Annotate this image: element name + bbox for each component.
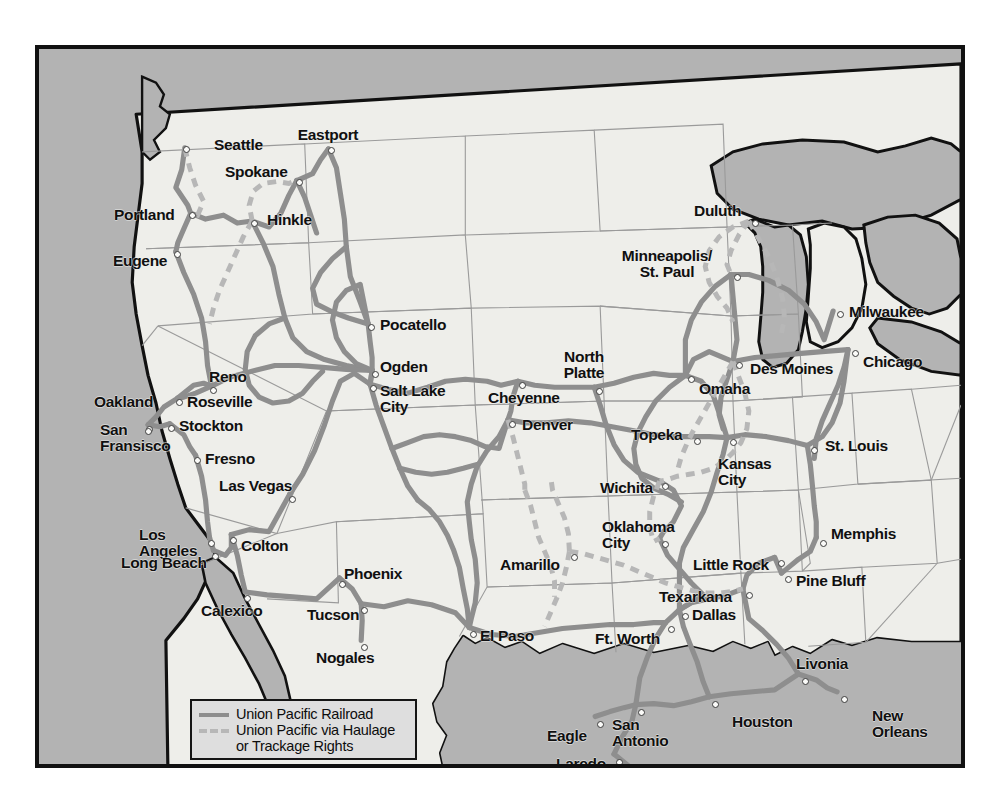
city-label: Salt Lake City — [380, 383, 445, 415]
city-dot[interactable] — [730, 439, 737, 446]
city-label: Eastport — [248, 127, 408, 143]
city-label: Fresno — [205, 451, 255, 467]
city-dot[interactable] — [694, 438, 701, 445]
city-label: Minneapolis/ St. Paul — [587, 248, 747, 280]
city-dot[interactable] — [596, 388, 603, 395]
city-dot[interactable] — [208, 540, 215, 547]
city-dot[interactable] — [616, 759, 623, 766]
city-dot[interactable] — [712, 701, 719, 708]
city-label: Ft. Worth — [595, 631, 660, 647]
legend-label-haulage: Union Pacific via Haulage or Trackage Ri… — [236, 722, 408, 754]
city-dot[interactable] — [785, 576, 792, 583]
city-dot[interactable] — [837, 311, 844, 318]
legend-item-haulage: Union Pacific via Haulage or Trackage Ri… — [199, 722, 408, 754]
city-label: Livonia — [796, 656, 848, 672]
city-dot[interactable] — [194, 457, 201, 464]
city-label: Chicago — [863, 354, 922, 370]
city-label: Amarillo — [500, 557, 560, 573]
city-label: Pine Bluff — [796, 573, 865, 589]
city-label: Stockton — [179, 418, 243, 434]
city-label: Ogden — [380, 359, 428, 375]
city-dot[interactable] — [328, 147, 335, 154]
city-dot[interactable] — [183, 146, 190, 153]
city-label: Reno — [209, 369, 247, 385]
legend-item-railroad: Union Pacific Railroad — [199, 706, 408, 722]
map-frame: Union Pacific Railroad Union Pacific via… — [35, 45, 965, 768]
city-label: Colton — [241, 538, 288, 554]
city-dot[interactable] — [736, 362, 743, 369]
city-label: St. Louis — [825, 438, 888, 454]
city-dot[interactable] — [519, 382, 526, 389]
city-label: Denver — [522, 417, 573, 433]
city-dot[interactable] — [189, 212, 196, 219]
city-dot[interactable] — [802, 678, 809, 685]
legend-solid-line-icon — [199, 713, 229, 717]
city-dot[interactable] — [212, 553, 219, 560]
city-label: Calexico — [201, 603, 262, 619]
city-label: El Paso — [480, 628, 534, 644]
city-label: Memphis — [831, 526, 896, 542]
city-label: Milwaukee — [849, 304, 924, 320]
city-label: Laredo — [556, 756, 606, 768]
city-label: Dallas — [692, 607, 736, 623]
map-legend: Union Pacific Railroad Union Pacific via… — [190, 699, 417, 760]
city-dot[interactable] — [470, 631, 477, 638]
city-dot[interactable] — [682, 613, 689, 620]
city-dot[interactable] — [176, 399, 183, 406]
city-label: Texarkana — [659, 589, 732, 605]
city-label: Eugene — [113, 253, 167, 269]
city-label: Las Vegas — [219, 478, 292, 494]
city-dot[interactable] — [778, 560, 785, 567]
city-dot[interactable] — [296, 179, 303, 186]
city-dot[interactable] — [662, 483, 669, 490]
city-dot[interactable] — [571, 554, 578, 561]
legend-dashed-line-icon — [199, 729, 229, 733]
city-label: Topeka — [631, 427, 682, 443]
city-dot[interactable] — [638, 709, 645, 716]
city-dot[interactable] — [746, 592, 753, 599]
city-dot[interactable] — [688, 376, 695, 383]
city-dot[interactable] — [244, 595, 251, 602]
city-dot[interactable] — [289, 496, 296, 503]
city-label: Roseville — [187, 394, 252, 410]
city-label: Oakland — [94, 394, 153, 410]
city-label: Nogales — [316, 650, 374, 666]
city-label: Kansas City — [718, 456, 771, 488]
city-label: Little Rock — [693, 557, 769, 573]
map-root: Union Pacific Railroad Union Pacific via… — [0, 0, 1001, 794]
city-label: San Antonio — [612, 717, 668, 749]
city-label: Wichita — [600, 480, 653, 496]
city-dot[interactable] — [820, 540, 827, 547]
city-label: San Fransisco — [100, 422, 171, 454]
city-label: Des Moines — [750, 361, 833, 377]
city-dot[interactable] — [852, 350, 859, 357]
city-label: North Platte — [504, 349, 664, 381]
city-label: New Orleans — [872, 708, 928, 740]
city-dot[interactable] — [251, 220, 258, 227]
city-label: Hinkle — [267, 212, 312, 228]
city-dot[interactable] — [668, 626, 675, 633]
lake-superior — [711, 138, 961, 229]
city-label: Omaha — [699, 381, 750, 397]
city-label: Cheyenne — [488, 390, 560, 406]
city-dot[interactable] — [841, 696, 848, 703]
city-label: Phoenix — [344, 566, 402, 582]
city-dot[interactable] — [370, 385, 377, 392]
city-label: Long Beach — [121, 555, 207, 571]
city-dot[interactable] — [811, 447, 818, 454]
city-dot[interactable] — [368, 324, 375, 331]
city-label: Duluth — [694, 203, 741, 219]
city-label: Pocatello — [380, 317, 446, 333]
city-label: Oklahoma City — [602, 519, 675, 551]
city-dot[interactable] — [361, 607, 368, 614]
city-dot[interactable] — [372, 371, 379, 378]
city-label: Houston — [732, 714, 793, 730]
city-label: Spokane — [225, 164, 288, 180]
city-dot[interactable] — [509, 421, 516, 428]
city-label: Eagle — [547, 728, 587, 744]
city-dot[interactable] — [752, 220, 759, 227]
city-dot[interactable] — [230, 537, 237, 544]
legend-label-railroad: Union Pacific Railroad — [236, 706, 373, 722]
city-dot[interactable] — [174, 251, 181, 258]
city-dot[interactable] — [597, 721, 604, 728]
